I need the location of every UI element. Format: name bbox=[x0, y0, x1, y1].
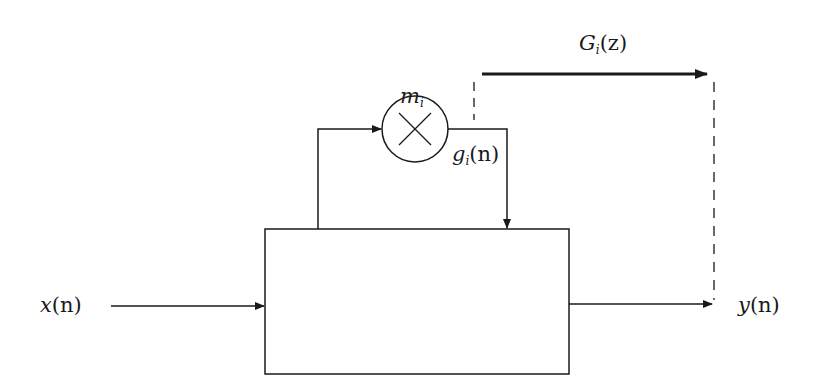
branch-to-multiplier bbox=[318, 129, 381, 229]
output-label: y(n) bbox=[737, 293, 780, 317]
multiplier-gain-label: mi bbox=[400, 84, 424, 110]
block-diagram: x(n) y(n) mi gi(n) Gi(z) bbox=[0, 0, 822, 392]
input-label: x(n) bbox=[40, 293, 82, 317]
transfer-function-label: Gi(z) bbox=[579, 31, 627, 57]
branch-signal-label: gi(n) bbox=[452, 142, 499, 168]
main-block bbox=[265, 229, 569, 374]
